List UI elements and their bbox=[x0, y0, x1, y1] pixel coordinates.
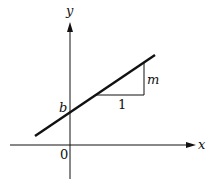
slope-intercept-diagram: y x 0 b 1 m bbox=[0, 0, 209, 186]
x-axis-label: x bbox=[198, 138, 205, 151]
origin-label: 0 bbox=[60, 148, 68, 161]
x-axis-arrow-icon bbox=[186, 142, 196, 148]
y-axis-arrow-icon bbox=[67, 22, 73, 32]
intercept-label: b bbox=[59, 101, 67, 114]
run-label: 1 bbox=[118, 98, 126, 111]
x-axis bbox=[10, 142, 196, 148]
diagram-graphics bbox=[0, 0, 209, 186]
rise-label: m bbox=[147, 73, 159, 86]
y-axis-label: y bbox=[66, 4, 73, 17]
